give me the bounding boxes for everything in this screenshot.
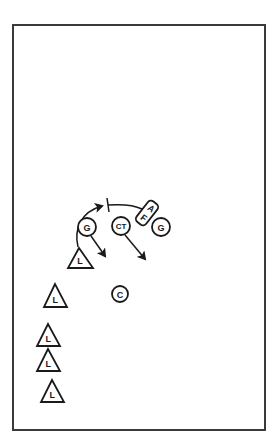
- player-g-right: G: [152, 218, 170, 236]
- play-diagram: GCTGC A F LLLLL: [0, 0, 279, 445]
- triangle-label: L: [46, 334, 52, 344]
- triangle-label: L: [77, 256, 83, 266]
- player-ct: CT: [112, 217, 130, 235]
- player-label: G: [157, 223, 164, 233]
- player-c: C: [112, 286, 128, 302]
- triangle-label: L: [50, 390, 56, 400]
- player-label: CT: [116, 222, 127, 231]
- triangle-label: L: [46, 359, 52, 369]
- triangle-label: L: [53, 295, 59, 305]
- player-label: C: [117, 290, 124, 300]
- player-label: G: [83, 223, 90, 233]
- player-g-left: G: [78, 218, 96, 236]
